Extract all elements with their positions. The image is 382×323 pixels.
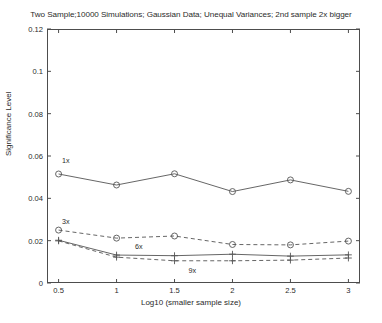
figure-canvas: Two Sample;10000 Simulations; Gaussian D… [0,0,382,323]
series-3x [56,227,352,248]
chart-title: Two Sample;10000 Simulations; Gaussian D… [0,10,382,19]
y-axis-title: Significance Level [4,92,13,156]
plot-area: 1x3x6x9x [47,29,360,283]
x-tick-label: 2 [230,286,234,295]
series-label-3x: 3x [62,217,70,226]
series-label-9x: 9x [188,266,196,275]
y-tick-label: 0.02 [0,236,43,245]
x-tick-label: 1 [114,286,118,295]
y-tick-label: 0.08 [0,109,43,118]
y-tick-label: 0.04 [0,194,43,203]
y-tick-label: 0.06 [0,152,43,161]
y-tick-label: 0 [0,279,43,288]
series-label-6x: 6x [135,242,143,251]
x-tick-label: 3 [346,286,350,295]
series-1x [56,171,352,195]
series-6x [55,237,352,260]
x-tick-label: 2.5 [285,286,296,295]
y-tick-label: 0.1 [0,67,43,76]
x-tick-label: 1.5 [169,286,180,295]
data-series-layer [47,29,360,283]
x-axis-title: Log10 (smaller sample size) [0,298,382,307]
series-label-1x: 1x [62,156,70,165]
x-tick-label: 0.5 [53,286,64,295]
y-tick-label: 0.12 [0,25,43,34]
